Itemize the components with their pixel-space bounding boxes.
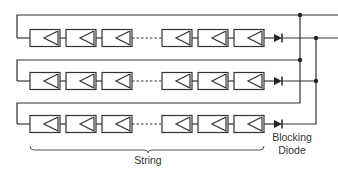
string-row-1 (17, 15, 338, 47)
string-row-2 (17, 60, 316, 90)
blocking-label-line1: Blocking (262, 131, 322, 144)
string-brace (30, 146, 264, 153)
string-label: String (118, 154, 178, 167)
junction-icon (298, 13, 318, 83)
diode-label-line2: Diode (262, 144, 322, 157)
